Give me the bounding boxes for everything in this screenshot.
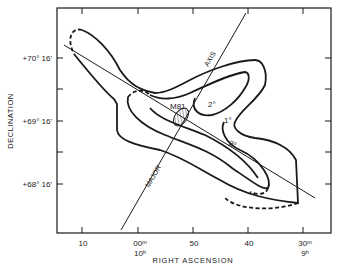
top-ticks [82,8,303,14]
right-ticks [325,58,331,184]
x-axis-title: RIGHT ASCENSION [152,256,233,265]
major-axis-line [64,45,315,198]
inner-contour-1deg-dashed [128,91,150,97]
contour-diagram: M81 AXIS MAJOR 2° 1° 2° +70° 16' +69° 16… [0,0,338,269]
axis-label: AXIS [203,50,217,68]
x-tick-label-40: 40 [245,239,254,248]
contour-label-2deg-upper: 2° [208,100,216,109]
x-tick-label-00m: 00ᵐ [133,239,147,248]
plot-frame [57,8,331,233]
y-tick-label-69: +69° 16' [23,117,53,126]
contour-2deg-lower [150,108,258,178]
bottom-ticks [82,227,303,233]
m81-label: M81 [170,102,186,111]
y-axis-title: DECLINATION [6,93,15,148]
left-ticks [57,58,63,184]
major-label: MAJOR [144,164,162,189]
x-tick-sub-10h: 10ʰ [134,249,146,258]
x-tick-label-10: 10 [79,239,88,248]
contour-label-1deg: 1° [224,116,232,125]
y-tick-label-68: +68° 16' [23,180,53,189]
y-tick-label-70: +70° 16' [23,54,53,63]
x-tick-sub-9h: 9ʰ [301,249,309,258]
x-tick-label-50: 50 [190,239,199,248]
x-tick-label-30m: 30ᵐ [298,239,312,248]
outer-contour-dashed-bottom [225,198,298,208]
